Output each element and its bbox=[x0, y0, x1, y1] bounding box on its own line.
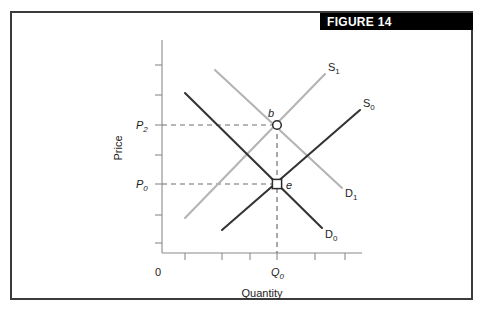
figure-root: FIGURE 14 bbox=[0, 0, 495, 320]
curve-labels-group: S1 S0 D1 D0 bbox=[325, 61, 375, 243]
supply-demand-plot: S1 S0 D1 D0 b e P2 P0 bbox=[0, 0, 495, 320]
point-b-marker[interactable] bbox=[273, 121, 282, 130]
y-axis-ticks bbox=[155, 65, 162, 243]
y-tick-label-p0-sub: 0 bbox=[143, 184, 148, 193]
curve-s0-line bbox=[222, 110, 360, 230]
curve-label-d0: D0 bbox=[325, 228, 338, 243]
curve-label-d0-sub: 0 bbox=[333, 234, 338, 243]
curve-label-d1: D1 bbox=[345, 187, 358, 202]
guide-lines-group bbox=[162, 125, 277, 253]
curve-label-s0-sub: 0 bbox=[370, 103, 375, 112]
curve-s1-line bbox=[185, 74, 325, 218]
curve-label-d0-main: D bbox=[325, 228, 333, 240]
x-axis-title: Quantity bbox=[242, 287, 283, 299]
x-tick-label-q0: Q0 bbox=[271, 266, 285, 281]
x-tick-label-q0-sub: 0 bbox=[280, 272, 285, 281]
axis-value-labels: P2 P0 Q0 0 bbox=[136, 119, 285, 281]
curve-label-s1-main: S bbox=[328, 61, 335, 73]
x-axis-ticks bbox=[185, 253, 345, 260]
origin-label: 0 bbox=[155, 266, 161, 278]
y-tick-label-p2-sub: 2 bbox=[142, 125, 148, 134]
y-tick-label-p2: P2 bbox=[136, 119, 148, 134]
curve-label-d1-main: D bbox=[345, 187, 353, 199]
curve-label-s1: S1 bbox=[328, 61, 340, 76]
axis-titles-group: Price Quantity bbox=[112, 135, 283, 299]
curve-label-s1-sub: 1 bbox=[335, 67, 340, 76]
point-e-marker[interactable] bbox=[272, 179, 281, 188]
point-label-e: e bbox=[286, 179, 292, 191]
curve-group-shifted bbox=[185, 70, 342, 218]
curve-label-s0: S0 bbox=[363, 97, 375, 112]
y-axis-title: Price bbox=[112, 135, 124, 160]
curve-label-d1-sub: 1 bbox=[353, 193, 358, 202]
curve-label-s0-main: S bbox=[363, 97, 370, 109]
point-label-b: b bbox=[268, 107, 274, 119]
y-tick-label-p0: P0 bbox=[136, 178, 148, 193]
